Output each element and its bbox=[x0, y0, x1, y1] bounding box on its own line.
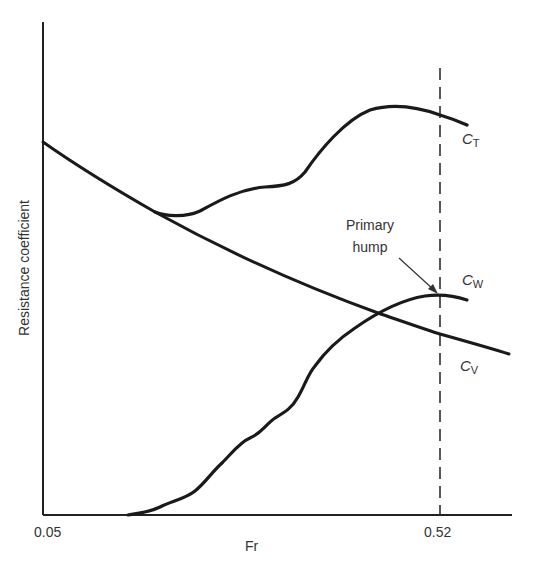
cv-label-sub: V bbox=[471, 364, 478, 376]
cv-label-main: C bbox=[460, 357, 471, 374]
ct-curve bbox=[155, 107, 467, 216]
ct-label-sub: T bbox=[473, 137, 480, 149]
y-axis-label: Resistance coefficient bbox=[16, 200, 32, 336]
resistance-coefficient-chart: Resistance coefficient 0.05 0.52 Fr Prim… bbox=[0, 0, 537, 564]
chart-canvas bbox=[0, 0, 537, 564]
ct-label: CT bbox=[462, 130, 480, 149]
cv-label: CV bbox=[460, 357, 478, 376]
cw-curve bbox=[128, 295, 467, 515]
cv-curve bbox=[43, 142, 509, 354]
x-axis-label: Fr bbox=[245, 538, 258, 554]
ct-label-main: C bbox=[462, 130, 473, 147]
cw-label: CW bbox=[462, 271, 483, 290]
annotation-line-2: hump bbox=[340, 236, 400, 258]
cw-label-main: C bbox=[462, 271, 473, 288]
primary-hump-annotation: Primary hump bbox=[340, 214, 400, 258]
primary-hump-arrow bbox=[399, 258, 438, 294]
x-tick-max: 0.52 bbox=[424, 524, 451, 540]
x-tick-min: 0.05 bbox=[34, 524, 61, 540]
annotation-line-1: Primary bbox=[340, 214, 400, 236]
cw-label-sub: W bbox=[473, 278, 483, 290]
